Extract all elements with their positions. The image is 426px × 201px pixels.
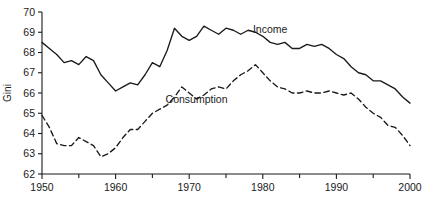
x-tick-label: 1990 [325, 181, 349, 193]
series-annotation-consumption: Consumption [166, 93, 228, 105]
chart-figure: 6263646566676869701950196019701980199020… [0, 0, 426, 201]
gini-line-chart: 6263646566676869701950196019701980199020… [0, 0, 426, 201]
series-annotation-income: Income [253, 23, 288, 35]
x-tick-label: 1960 [104, 181, 128, 193]
x-tick-label: 1980 [251, 181, 275, 193]
y-axis-title: Gini [2, 84, 13, 102]
y-tick-label: 66 [23, 87, 35, 99]
x-tick-label: 1950 [30, 181, 54, 193]
annotations-group: IncomeConsumption [166, 23, 288, 105]
y-tick-label: 64 [23, 127, 35, 139]
y-tick-label: 70 [23, 6, 35, 18]
x-tick-label: 2000 [398, 181, 422, 193]
x-tick-label: 1970 [178, 181, 202, 193]
y-tick-label: 65 [23, 107, 35, 119]
y-tick-label: 69 [23, 26, 35, 38]
series-line-consumption [42, 65, 410, 157]
y-tick-label: 68 [23, 46, 35, 58]
y-tick-label: 62 [23, 168, 35, 180]
y-tick-label: 67 [23, 66, 35, 78]
series-group [42, 26, 410, 157]
series-line-income [42, 26, 410, 103]
y-tick-label: 63 [23, 147, 35, 159]
